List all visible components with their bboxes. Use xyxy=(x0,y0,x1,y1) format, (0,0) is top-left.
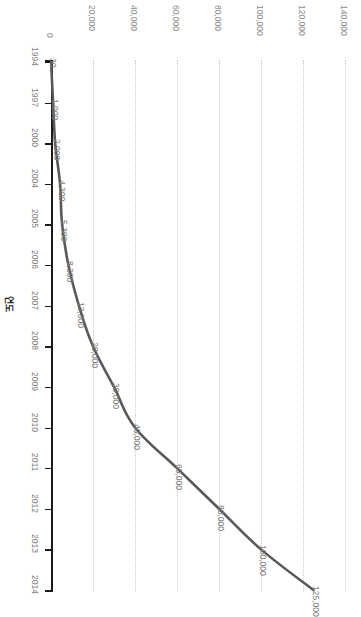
data-label: 8,300 xyxy=(65,261,75,282)
data-label: 30 xyxy=(48,58,58,67)
data-label: 13,300 xyxy=(76,302,86,328)
data-label: 30,000 xyxy=(111,383,121,409)
series-line-1 xyxy=(51,62,313,590)
data-label: 20,000 xyxy=(90,342,100,368)
data-label: 1,000 xyxy=(50,99,60,120)
data-label: 4,300 xyxy=(57,180,67,201)
data-label: 100,000 xyxy=(258,545,268,576)
data-label: 80,000 xyxy=(216,505,226,531)
data-label: 60,000 xyxy=(174,464,184,490)
data-label: 40,000 xyxy=(132,424,142,450)
data-label: 125,000 xyxy=(311,586,321,617)
data-label: 2,000 xyxy=(52,139,62,160)
data-label: 5,300 xyxy=(59,220,69,241)
